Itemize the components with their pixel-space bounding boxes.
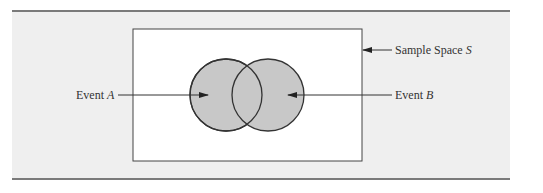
event-b-label: Event B <box>395 88 433 102</box>
sample-space-label: Sample Space S <box>395 43 472 57</box>
event-a-label: Event A <box>76 88 114 102</box>
